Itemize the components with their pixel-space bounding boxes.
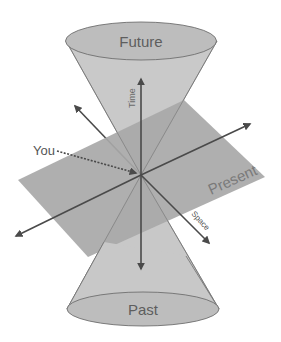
space-label-left: Space (19, 212, 44, 230)
space-label-right: Space (190, 209, 212, 232)
time-label: Time (127, 88, 137, 108)
future-label: Future (119, 33, 162, 50)
past-label: Past (128, 301, 159, 318)
light-cone-diagram: Future Past Time Present Space Space You (0, 0, 281, 342)
you-label: You (33, 143, 55, 158)
